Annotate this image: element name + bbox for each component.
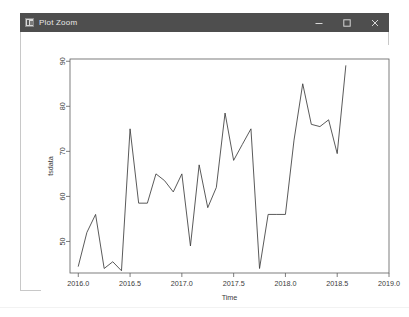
x-axis-title: Time — [222, 293, 238, 302]
x-tick-label: 2018.5 — [326, 279, 348, 288]
x-tick-label: 2017.0 — [171, 279, 193, 288]
line-chart: 50607080902016.02016.52017.02017.52018.0… — [41, 45, 409, 304]
plot-window-icon — [25, 18, 34, 27]
window-title: Plot Zoom — [39, 18, 77, 27]
page-divider — [0, 307, 409, 308]
window-controls — [305, 13, 389, 32]
x-tick-label: 2019.0 — [378, 279, 400, 288]
y-tick-label: 70 — [58, 147, 67, 155]
x-tick-label: 2016.5 — [119, 279, 141, 288]
y-tick-label: 80 — [58, 102, 67, 110]
y-tick-label: 60 — [58, 192, 67, 200]
y-axis-title: tsdata — [46, 156, 55, 176]
screenshot-root: 50607080902016.02016.52017.02017.52018.0… — [0, 0, 409, 317]
x-tick-label: 2017.5 — [223, 279, 245, 288]
minimize-icon[interactable] — [305, 13, 333, 32]
window-titlebar[interactable]: Plot Zoom — [20, 13, 389, 32]
y-tick-label: 90 — [58, 57, 67, 65]
maximize-icon[interactable] — [333, 13, 361, 32]
x-tick-label: 2016.0 — [67, 279, 89, 288]
close-icon[interactable] — [361, 13, 389, 32]
plot-window: 50607080902016.02016.52017.02017.52018.0… — [20, 13, 389, 291]
plot-canvas: 50607080902016.02016.52017.02017.52018.0… — [41, 45, 409, 304]
x-axis: 2016.02016.52017.02017.52018.02018.52019… — [67, 273, 400, 288]
x-tick-label: 2018.0 — [274, 279, 296, 288]
y-axis: 5060708090 — [58, 57, 70, 245]
y-tick-label: 50 — [58, 237, 67, 245]
plot-box — [70, 59, 389, 273]
series-line-tsdata — [78, 66, 346, 271]
